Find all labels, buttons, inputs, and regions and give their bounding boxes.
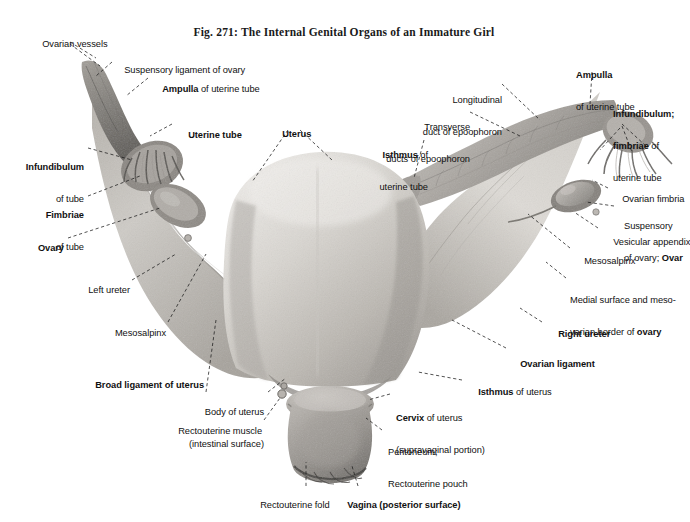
label-peritoneum-rectouterine-pouch: Peritoneum; Rectouterine pouch	[388, 426, 468, 511]
label-right-ureter: Right ureter	[548, 318, 610, 350]
vagina-posterior-surface	[288, 404, 372, 484]
label-isthmus-of-uterine-tube: Isthmus of uterine tube	[346, 129, 428, 214]
label-rectouterine-muscle: Rectouterine muscle	[136, 415, 262, 447]
label-ovarian-ligament: Ovarian ligament	[510, 348, 595, 380]
label-uterine-tube: Uterine tube	[178, 119, 242, 151]
label-ovarian-vessels: Ovarian vessels	[32, 28, 108, 60]
label-mesosalpinx-right: Mesosalpinx	[574, 245, 635, 277]
label-rectouterine-fold: Rectouterine fold	[250, 489, 330, 521]
label-mesosalpinx-left: Mesosalpinx	[62, 317, 166, 349]
label-left-ureter: Left ureter	[34, 274, 130, 306]
label-ampulla-left: Ampulla of uterine tube	[152, 73, 260, 105]
label-uterus: Uterus	[272, 118, 311, 150]
label-ovary-left: Ovary	[0, 232, 64, 264]
